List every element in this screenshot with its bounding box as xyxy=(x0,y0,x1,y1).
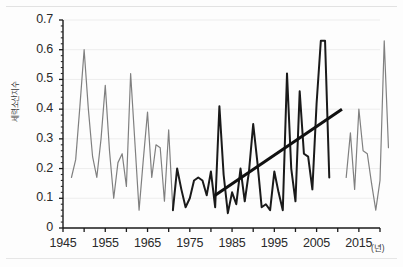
data-series-group xyxy=(71,41,388,213)
series-line-late-period-gray xyxy=(346,109,371,189)
y-tick-label: 0.7 xyxy=(19,12,53,26)
y-tick-label: 0.2 xyxy=(19,161,53,175)
x-tick-label: 2005 xyxy=(294,236,340,250)
y-tick-label: 0.1 xyxy=(19,190,53,204)
series-line-tail-period-gray xyxy=(372,41,389,210)
y-tick-label: 0.5 xyxy=(19,71,53,85)
trend-line xyxy=(215,109,342,195)
plot-canvas xyxy=(0,0,403,267)
x-tick-label: 1985 xyxy=(209,236,255,250)
axes-group xyxy=(63,20,380,228)
x-axis-unit-label: (년) xyxy=(371,241,385,253)
x-tick-label: 1945 xyxy=(40,236,86,250)
y-tick-label: 0.3 xyxy=(19,131,53,145)
series-line-early-period-gray xyxy=(71,50,172,210)
x-tick-label: 1955 xyxy=(82,236,128,250)
series-line-recent-period-black xyxy=(173,41,329,213)
x-tick-label: 1995 xyxy=(251,236,297,250)
x-tick-label: 1965 xyxy=(125,236,171,250)
gridlines-group xyxy=(63,20,380,198)
x-tick-label: 1975 xyxy=(167,236,213,250)
chart-figure: 세력소산지수 00.10.20.30.40.50.60.7 1945195519… xyxy=(0,0,403,267)
y-tick-label: 0 xyxy=(19,220,53,234)
annotations-group xyxy=(215,109,342,195)
y-tick-label: 0.6 xyxy=(19,42,53,56)
y-tick-label: 0.4 xyxy=(19,101,53,115)
